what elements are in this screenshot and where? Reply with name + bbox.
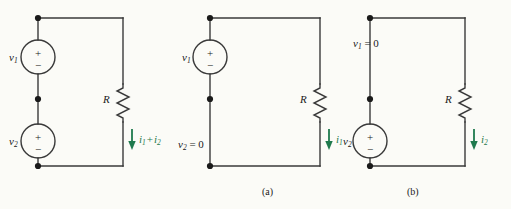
v1-plus-sign: + <box>33 48 43 59</box>
v1-minus-sign: − <box>205 60 215 71</box>
node-dot-top <box>367 15 373 21</box>
node-dot-middle <box>207 96 213 102</box>
resistor-zigzag <box>117 84 129 122</box>
v2-label: v2 <box>343 136 352 147</box>
current-arrow <box>325 129 332 150</box>
node-dot-top <box>207 15 213 21</box>
v2-shorted-subscript: 2 <box>183 143 187 152</box>
current-label-i1-subscript: 1 <box>142 138 146 147</box>
circuit-a-schematic <box>180 0 345 209</box>
node-dot-top <box>35 15 41 21</box>
resistor-label: R <box>103 94 110 105</box>
node-dot-bottom <box>207 163 213 169</box>
current-label-operator: + <box>146 133 154 145</box>
resistor-label: R <box>300 94 307 105</box>
current-label: i1 <box>336 134 343 145</box>
circuit-b: + − v1 = 0 v2 R i2 (b) <box>345 0 511 209</box>
circuit-b-schematic <box>345 0 511 209</box>
current-arrow <box>470 129 477 150</box>
current-label: i1+i2 <box>139 134 161 145</box>
v2-minus-sign: − <box>33 144 43 155</box>
v1-label-subscript: 1 <box>14 56 18 65</box>
v1-shorted-subscript: 1 <box>358 42 362 51</box>
v1-minus-sign: − <box>33 60 43 71</box>
current-label-i2-subscript: 2 <box>157 138 161 147</box>
v1-shorted-label: v1 = 0 <box>353 38 379 49</box>
circuit-a: + − v1 v2 = 0 R i1 (a) <box>180 0 345 209</box>
v1-label: v1 <box>182 52 191 63</box>
node-dot-bottom <box>367 163 373 169</box>
v1-label: v1 <box>9 52 18 63</box>
caption-b: (b) <box>407 186 419 197</box>
v2-shorted-label: v2 = 0 <box>178 139 204 150</box>
v1-plus-sign: + <box>205 48 215 59</box>
current-label-subscript: 2 <box>484 138 488 147</box>
v2-label-subscript: 2 <box>348 140 352 149</box>
resistor-zigzag <box>314 84 326 122</box>
v2-plus-sign: + <box>365 132 375 143</box>
v1-label-subscript: 1 <box>187 56 191 65</box>
circuit-full: + − + − v1 v2 R i1+i2 <box>0 0 180 209</box>
v2-label: v2 <box>9 136 18 147</box>
v2-plus-sign: + <box>33 132 43 143</box>
superposition-circuit-figure: + − + − v1 v2 R i1+i2 <box>0 0 511 209</box>
node-dot-bottom <box>35 163 41 169</box>
current-arrow <box>128 129 135 150</box>
v2-label-subscript: 2 <box>14 140 18 149</box>
node-dot-middle <box>35 96 41 102</box>
circuit-full-schematic <box>0 0 180 209</box>
node-dot-middle <box>367 96 373 102</box>
current-label: i2 <box>481 134 488 145</box>
resistor-zigzag <box>459 84 471 122</box>
v2-minus-sign: − <box>365 144 375 155</box>
v2-shorted-value: = 0 <box>187 138 204 150</box>
resistor-label: R <box>445 94 452 105</box>
v1-shorted-value: = 0 <box>362 37 379 49</box>
caption-a: (a) <box>262 186 273 197</box>
